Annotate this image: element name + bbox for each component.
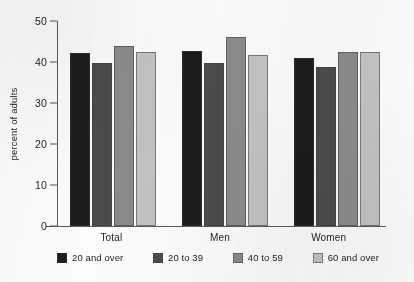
x-axis-label: Men <box>180 232 260 243</box>
legend-item[interactable]: 20 to 39 <box>153 252 203 263</box>
bar-group <box>281 21 393 226</box>
chart-legend: 20 and over20 to 3940 to 5960 and over <box>57 252 383 263</box>
legend-swatch-icon <box>313 253 323 263</box>
legend-item[interactable]: 40 to 59 <box>233 252 283 263</box>
bar <box>182 51 202 226</box>
y-tick-label: 20 <box>35 138 47 150</box>
legend-label: 20 to 39 <box>168 252 203 263</box>
bar-chart-figure: percent of adults 01020304050 TotalMenWo… <box>0 0 414 282</box>
x-axis-line <box>46 226 386 227</box>
y-axis-label-host: percent of adults <box>0 21 30 226</box>
bar <box>92 63 112 226</box>
legend-item[interactable]: 20 and over <box>57 252 123 263</box>
bar <box>204 63 224 226</box>
y-tick-mark <box>50 103 57 104</box>
bar <box>248 55 268 226</box>
legend-label: 20 and over <box>72 252 123 263</box>
y-tick-mark <box>50 21 57 22</box>
bar-group <box>169 21 281 226</box>
plot-area: 01020304050 <box>57 21 383 226</box>
bar <box>294 58 314 226</box>
y-tick-label: 50 <box>35 15 47 27</box>
bar <box>338 52 358 226</box>
y-tick-label: 40 <box>35 56 47 68</box>
legend-label: 60 and over <box>328 252 379 263</box>
y-tick-mark <box>50 185 57 186</box>
legend-label: 40 to 59 <box>248 252 283 263</box>
bar-groups <box>57 21 383 226</box>
y-tick-label: 0 <box>41 220 47 232</box>
y-tick-label: 30 <box>35 97 47 109</box>
legend-swatch-icon <box>233 253 243 263</box>
x-axis-label: Total <box>71 232 151 243</box>
y-tick-label: 10 <box>35 179 47 191</box>
legend-item[interactable]: 60 and over <box>313 252 379 263</box>
y-tick-mark <box>50 144 57 145</box>
y-tick-mark <box>50 62 57 63</box>
legend-swatch-icon <box>57 253 67 263</box>
bar-group <box>57 21 169 226</box>
legend-swatch-icon <box>153 253 163 263</box>
y-tick-mark <box>50 226 57 227</box>
x-axis-label: Women <box>289 232 369 243</box>
bar <box>360 52 380 226</box>
bar <box>316 67 336 226</box>
y-axis-label: percent of adults <box>8 87 19 160</box>
bar <box>136 52 156 226</box>
bar <box>114 46 134 226</box>
bar <box>70 53 90 226</box>
bar <box>226 37 246 226</box>
